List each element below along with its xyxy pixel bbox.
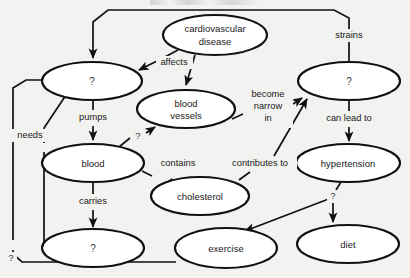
svg-text:become: become [251, 89, 284, 99]
node-lifestyle-unknown[interactable]: ? [42, 229, 144, 267]
svg-text:needs: needs [17, 130, 43, 140]
edge-label-pumps: pumps [74, 111, 113, 124]
concept-map-diagram: cardiovascular disease ? blood vessels ?… [0, 0, 410, 278]
node-hypertension[interactable]: hypertension [296, 144, 400, 182]
node-label-cardiovascular-disease-line1: cardiovascular [184, 23, 245, 34]
concept-map-canvas: cardiovascular disease ? blood vessels ?… [0, 0, 410, 278]
node-blood-vessels[interactable]: blood vessels [137, 90, 235, 128]
node-label-arteries-unknown: ? [346, 76, 352, 87]
edge-label-needs: needs [11, 129, 49, 142]
svg-text:affects: affects [160, 57, 188, 67]
node-cholesterol[interactable]: cholesterol [151, 177, 249, 215]
edge-label-blood-to-vessels: ? [132, 130, 144, 142]
node-label-diet: diet [340, 239, 356, 250]
edge-hypertension-exercise [245, 195, 339, 231]
edge-label-strains: strains [331, 29, 368, 42]
node-label-hypertension: hypertension [321, 158, 375, 169]
edge-label-can-lead-to: can lead to [320, 112, 378, 125]
svg-text:pumps: pumps [79, 112, 107, 122]
edge-label-become-narrow-in: become narrow in [243, 88, 293, 128]
node-arteries-unknown[interactable]: ? [298, 62, 400, 100]
node-diet[interactable]: diet [297, 225, 399, 263]
svg-text:can lead to: can lead to [326, 113, 372, 123]
node-exercise[interactable]: exercise [175, 228, 277, 268]
node-label-lifestyle-unknown: ? [90, 243, 96, 254]
svg-text:contributes to: contributes to [232, 158, 288, 168]
svg-text:narrow: narrow [254, 101, 283, 111]
svg-text:carries: carries [79, 196, 107, 206]
node-label-blood-vessels-line2: vessels [170, 110, 202, 121]
node-label-blood: blood [81, 158, 104, 169]
svg-text:?: ? [135, 130, 140, 141]
edge-label-contributes-to: contributes to [224, 157, 297, 170]
node-label-exercise: exercise [208, 243, 243, 254]
node-label-blood-vessels-line1: blood [174, 98, 197, 109]
svg-text:contains: contains [161, 158, 196, 168]
node-cardiovascular-disease[interactable]: cardiovascular disease [163, 15, 267, 55]
edge-label-contains: contains [153, 157, 201, 170]
edge-label-hypertension-diet: ? [327, 190, 339, 202]
svg-text:in: in [264, 113, 271, 123]
edge-label-carries: carries [74, 195, 114, 208]
edge-label-affects: affects [156, 56, 193, 69]
node-label-heart-unknown: ? [89, 76, 95, 87]
svg-text:?: ? [8, 252, 13, 263]
node-blood[interactable]: blood [42, 144, 144, 182]
edge-label-exercise-loop: ? [5, 252, 17, 264]
node-heart-unknown[interactable]: ? [42, 62, 142, 100]
svg-text:?: ? [330, 190, 335, 201]
svg-text:strains: strains [335, 30, 363, 40]
node-label-cholesterol: cholesterol [177, 191, 223, 202]
node-label-cardiovascular-disease-line2: disease [199, 36, 232, 47]
